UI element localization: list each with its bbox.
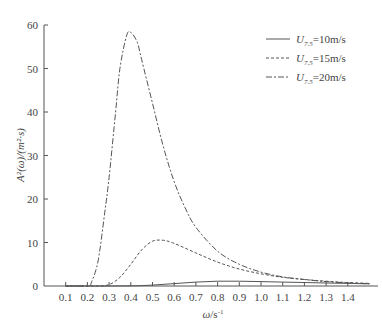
x-tick-label: 0.5: [146, 291, 160, 303]
y-tick-label: 30: [27, 150, 39, 162]
x-tick-label: 1.0: [254, 291, 268, 303]
x-tick-label: 1.1: [276, 291, 290, 303]
x-tick-label: 0.1: [59, 291, 73, 303]
spectrum-chart: 01020304050600.10.20.30.40.50.60.70.80.9…: [0, 0, 382, 327]
x-tick-label: 0.7: [189, 291, 203, 303]
x-tick-label: 0.8: [211, 291, 225, 303]
y-tick-label: 0: [33, 280, 39, 292]
series-line-3: [66, 31, 370, 286]
x-tick-label: 1.4: [341, 291, 355, 303]
y-tick-label: 40: [27, 106, 39, 118]
y-tick-label: 60: [27, 19, 39, 31]
x-axis-label: ω/s-1: [203, 308, 224, 320]
y-tick-label: 10: [27, 237, 39, 249]
x-tick-label: 0.6: [167, 291, 181, 303]
plot-area: [66, 31, 370, 286]
legend-label: U7.5=15m/s: [296, 52, 346, 67]
legend: U7.5=10m/sU7.5=15m/sU7.5=20m/s: [266, 33, 346, 86]
series-line-2: [66, 240, 370, 286]
legend-label: U7.5=20m/s: [296, 71, 346, 86]
x-tick-label: 1.3: [319, 291, 333, 303]
y-axis-label: A²(ω)/(m²·s): [14, 128, 27, 183]
x-tick-label: 1.2: [298, 291, 312, 303]
x-tick-label: 0.9: [232, 291, 246, 303]
y-tick-label: 20: [27, 193, 39, 205]
x-tick-label: 0.3: [102, 291, 116, 303]
y-tick-label: 50: [27, 63, 39, 75]
x-tick-label: 0.2: [81, 291, 95, 303]
legend-label: U7.5=10m/s: [296, 33, 346, 48]
x-tick-label: 0.4: [124, 291, 138, 303]
